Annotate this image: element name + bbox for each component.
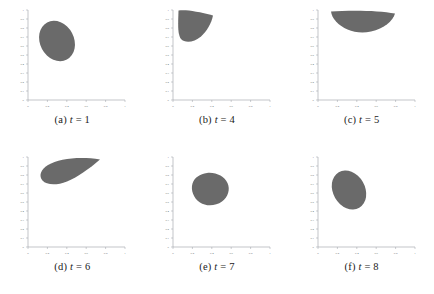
x-tick-label: 0.4 bbox=[65, 251, 69, 255]
figure-panel-b: 0 0.1 0.2 0.3 0.4 0.5 0.6 0.7 0.8 0.9 1 bbox=[145, 0, 290, 147]
y-tick-label: 0.1 bbox=[310, 236, 314, 240]
caption-eq: = bbox=[365, 114, 371, 125]
x-tick-label: 0.6 bbox=[229, 251, 233, 255]
y-tick-label: 0.9 bbox=[21, 164, 25, 168]
x-tick-label: 1 bbox=[125, 251, 127, 255]
plot-svg-b: 0 0.1 0.2 0.3 0.4 0.5 0.6 0.7 0.8 0.9 1 bbox=[157, 4, 277, 112]
x-tick-label: 0.8 bbox=[104, 104, 108, 108]
x-ticks-d: 0 0.2 0.4 0.6 0.8 1 bbox=[28, 247, 127, 255]
caption-var: t bbox=[70, 114, 73, 125]
x-tick-label: 0.2 bbox=[46, 251, 50, 255]
plot-area-a: 0 0.1 0.2 0.3 0.4 0.5 0.6 0.7 0.8 0.9 1 bbox=[12, 4, 132, 112]
y-tick-label: 0.6 bbox=[21, 44, 25, 48]
y-tick-label: 0.2 bbox=[21, 227, 25, 231]
x-tick-label: 0.2 bbox=[335, 104, 339, 108]
caption-eq: = bbox=[76, 261, 82, 272]
y-tick-label: 0.7 bbox=[310, 182, 314, 186]
y-tick-label: 0.5 bbox=[165, 53, 169, 57]
y-tick-label: 0.3 bbox=[165, 71, 169, 75]
x-tick-label: 0.8 bbox=[249, 104, 253, 108]
figure-panel-e: 0 0.1 0.2 0.3 0.4 0.5 0.6 0.7 0.8 0.9 1 bbox=[145, 147, 290, 294]
y-tick-label: 0.8 bbox=[165, 173, 169, 177]
y-tick-label: 0.3 bbox=[21, 71, 25, 75]
y-tick-label: 0.8 bbox=[21, 26, 25, 30]
y-tick-label: 0.4 bbox=[310, 209, 314, 213]
y-tick-label: 0.1 bbox=[165, 89, 169, 93]
plot-svg-d: 0 0.1 0.2 0.3 0.4 0.5 0.6 0.7 0.8 0.9 1 bbox=[12, 151, 132, 259]
y-tick-label: 0 bbox=[168, 245, 170, 249]
x-ticks-c: 0 0.2 0.4 0.6 0.8 1 bbox=[317, 100, 416, 108]
plot-area-b: 0 0.1 0.2 0.3 0.4 0.5 0.6 0.7 0.8 0.9 1 bbox=[157, 4, 277, 112]
plot-area-e: 0 0.1 0.2 0.3 0.4 0.5 0.6 0.7 0.8 0.9 1 bbox=[157, 151, 277, 259]
y-tick-label: 0.7 bbox=[21, 35, 25, 39]
panel-caption-a: (a) t = 1 bbox=[55, 114, 90, 126]
x-tick-label: 1 bbox=[414, 251, 416, 255]
x-tick-label: 0.2 bbox=[335, 251, 339, 255]
plot-svg-a: 0 0.1 0.2 0.3 0.4 0.5 0.6 0.7 0.8 0.9 1 bbox=[12, 4, 132, 112]
data-region-e bbox=[192, 173, 229, 205]
x-tick-label: 0.6 bbox=[85, 104, 89, 108]
y-tick-label: 0.4 bbox=[165, 62, 169, 66]
y-tick-label: 0.6 bbox=[165, 191, 169, 195]
y-tick-label: 0.1 bbox=[310, 89, 314, 93]
y-tick-label: 0.9 bbox=[165, 164, 169, 168]
caption-value: 8 bbox=[373, 261, 378, 272]
x-ticks-a: 0 0.2 0.4 0.6 0.8 1 bbox=[28, 100, 127, 108]
caption-prefix: (b) bbox=[199, 114, 212, 125]
y-tick-label: 1 bbox=[168, 155, 170, 159]
axes-e: 0 0.1 0.2 0.3 0.4 0.5 0.6 0.7 0.8 0.9 1 bbox=[165, 155, 271, 254]
panel-caption-f: (f) t = 8 bbox=[345, 261, 379, 273]
y-tick-label: 1 bbox=[312, 8, 314, 12]
x-tick-label: 0.4 bbox=[210, 104, 214, 108]
y-tick-label: 0.3 bbox=[310, 71, 314, 75]
panel-caption-d: (d) t = 6 bbox=[54, 261, 90, 273]
y-tick-label: 0.7 bbox=[21, 182, 25, 186]
x-ticks-b: 0 0.2 0.4 0.6 0.8 1 bbox=[172, 100, 271, 108]
figure-panel-a: 0 0.1 0.2 0.3 0.4 0.5 0.6 0.7 0.8 0.9 1 bbox=[0, 0, 145, 147]
y-tick-label: 0.9 bbox=[310, 17, 314, 21]
x-tick-label: 0 bbox=[28, 251, 30, 255]
y-tick-label: 0.7 bbox=[165, 35, 169, 39]
x-tick-label: 1 bbox=[269, 104, 271, 108]
axes-f: 0 0.1 0.2 0.3 0.4 0.5 0.6 0.7 0.8 0.9 1 bbox=[310, 155, 416, 254]
data-region-d bbox=[41, 158, 101, 184]
caption-value: 7 bbox=[229, 261, 234, 272]
x-tick-label: 0.8 bbox=[104, 251, 108, 255]
x-tick-label: 0 bbox=[317, 104, 319, 108]
caption-prefix: (d) bbox=[54, 261, 67, 272]
data-region-c bbox=[331, 11, 395, 33]
y-tick-label: 0.6 bbox=[165, 44, 169, 48]
caption-value: 4 bbox=[230, 114, 235, 125]
x-tick-label: 0 bbox=[317, 251, 319, 255]
y-tick-label: 0.1 bbox=[21, 236, 25, 240]
y-tick-label: 0 bbox=[312, 245, 314, 249]
caption-eq: = bbox=[364, 261, 370, 272]
y-tick-label: 0.4 bbox=[21, 62, 25, 66]
y-tick-label: 0.4 bbox=[310, 62, 314, 66]
x-tick-label: 0.6 bbox=[85, 251, 89, 255]
y-tick-label: 0.2 bbox=[310, 80, 314, 84]
x-tick-label: 0 bbox=[172, 251, 174, 255]
y-tick-label: 0.6 bbox=[310, 44, 314, 48]
x-tick-label: 0.4 bbox=[355, 251, 359, 255]
figure-panel-f: 0 0.1 0.2 0.3 0.4 0.5 0.6 0.7 0.8 0.9 1 bbox=[289, 147, 434, 294]
x-tick-label: 0 bbox=[172, 104, 174, 108]
x-tick-label: 0.8 bbox=[393, 251, 397, 255]
y-ticks-a: 0 0.1 0.2 0.3 0.4 0.5 0.6 0.7 0.8 0.9 1 bbox=[21, 8, 29, 102]
caption-prefix: (c) bbox=[344, 114, 356, 125]
caption-prefix: (a) bbox=[55, 114, 67, 125]
y-tick-label: 0.3 bbox=[21, 218, 25, 222]
plot-area-d: 0 0.1 0.2 0.3 0.4 0.5 0.6 0.7 0.8 0.9 1 bbox=[12, 151, 132, 259]
data-region-b bbox=[178, 10, 213, 42]
caption-var: t bbox=[359, 114, 362, 125]
figure-panel-c: 0 0.1 0.2 0.3 0.4 0.5 0.6 0.7 0.8 0.9 1 bbox=[289, 0, 434, 147]
y-tick-label: 0 bbox=[168, 98, 170, 102]
x-tick-label: 0.6 bbox=[374, 104, 378, 108]
y-ticks-b: 0 0.1 0.2 0.3 0.4 0.5 0.6 0.7 0.8 0.9 1 bbox=[165, 8, 173, 102]
caption-value: 5 bbox=[374, 114, 379, 125]
y-tick-label: 0.4 bbox=[165, 209, 169, 213]
caption-value: 1 bbox=[85, 114, 90, 125]
y-ticks-e: 0 0.1 0.2 0.3 0.4 0.5 0.6 0.7 0.8 0.9 1 bbox=[165, 155, 173, 249]
y-tick-label: 1 bbox=[23, 8, 25, 12]
panel-caption-c: (c) t = 5 bbox=[344, 114, 379, 126]
